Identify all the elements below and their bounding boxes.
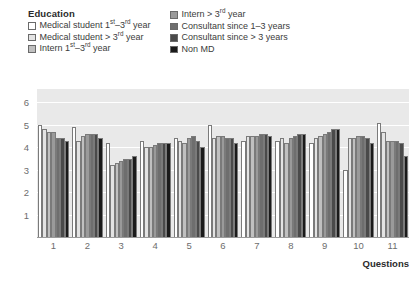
x-tick-label: 11: [377, 240, 408, 256]
bar: [98, 138, 102, 237]
legend-item-intern-gt3: Intern > 3rd year: [170, 9, 370, 21]
bar: [268, 136, 272, 237]
bar-groups: [37, 89, 409, 237]
bar-group-7: [241, 89, 272, 237]
legend-label-consultant-1-3: Consultant since 1–3 years: [182, 21, 291, 33]
bar-group-6: [208, 89, 239, 237]
x-tick-label: 3: [106, 240, 137, 256]
legend-item-consultant-1-3: Consultant since 1–3 years: [170, 21, 370, 33]
y-tick-label: 5: [24, 119, 29, 130]
bar-group-3: [106, 89, 137, 237]
x-tick-label: 1: [38, 240, 69, 256]
legend-swatch-consultant-1-3: [170, 23, 178, 31]
bar-group-2: [72, 89, 103, 237]
x-tick-label: 8: [275, 240, 306, 256]
bar: [132, 156, 136, 237]
legend-label-intern-1-3: Intern 1st–3rd year: [40, 43, 111, 55]
bar-group-11: [377, 89, 408, 237]
x-tick-label: 6: [208, 240, 239, 256]
chart-legend: Education Medical student 1st–3rd yearMe…: [28, 8, 408, 70]
x-axis-title: Questions: [363, 258, 409, 269]
legend-label-intern-gt3: Intern > 3rd year: [182, 9, 246, 21]
legend-swatch-non-md: [170, 46, 178, 54]
bar: [65, 141, 69, 237]
bar-group-9: [309, 89, 340, 237]
legend-swatch-consultant-gt3: [170, 34, 178, 42]
bar: [302, 134, 306, 237]
legend-swatch-medical-student-1-3: [28, 22, 36, 30]
x-axis: 1234567891011: [37, 240, 409, 256]
y-tick-label: 2: [24, 187, 29, 198]
y-tick-label: 3: [24, 164, 29, 175]
legend-item-consultant-gt3: Consultant since > 3 years: [170, 32, 370, 44]
bar-group-4: [140, 89, 171, 237]
x-tick-label: 5: [174, 240, 205, 256]
bar: [370, 143, 374, 237]
bar: [234, 143, 238, 237]
legend-column-right: Intern > 3rd yearConsultant since 1–3 ye…: [170, 9, 370, 55]
y-tick-label: 1: [24, 209, 29, 220]
legend-item-medical-student-gt3: Medical student > 3rd year: [28, 32, 173, 44]
x-axis-line: [37, 237, 409, 238]
bar-group-5: [174, 89, 205, 237]
legend-label-medical-student-1-3: Medical student 1st–3rd year: [40, 20, 151, 32]
legend-label-consultant-gt3: Consultant since > 3 years: [182, 32, 288, 44]
legend-swatch-medical-student-gt3: [28, 34, 36, 42]
legend-item-non-md: Non MD: [170, 44, 370, 56]
legend-label-medical-student-gt3: Medical student > 3rd year: [40, 32, 144, 44]
y-tick-label: 4: [24, 142, 29, 153]
bar-group-10: [343, 89, 374, 237]
x-tick-label: 7: [241, 240, 272, 256]
y-axis: 654321: [0, 89, 33, 237]
legend-column-left: Medical student 1st–3rd yearMedical stud…: [28, 20, 173, 55]
bar: [404, 156, 408, 237]
legend-columns: Medical student 1st–3rd yearMedical stud…: [28, 20, 408, 55]
legend-swatch-intern-gt3: [170, 11, 178, 19]
legend-swatch-intern-1-3: [28, 45, 36, 53]
bar-group-8: [275, 89, 306, 237]
bar-group-1: [38, 89, 69, 237]
plot-area: [37, 89, 409, 237]
bar: [336, 129, 340, 237]
legend-item-intern-1-3: Intern 1st–3rd year: [28, 43, 173, 55]
bar: [166, 143, 170, 237]
x-tick-label: 4: [140, 240, 171, 256]
x-tick-label: 2: [72, 240, 103, 256]
bar: [200, 147, 204, 237]
legend-item-medical-student-1-3: Medical student 1st–3rd year: [28, 20, 173, 32]
x-tick-label: 10: [343, 240, 374, 256]
y-tick-label: 6: [24, 97, 29, 108]
legend-label-non-md: Non MD: [182, 44, 215, 56]
x-tick-label: 9: [309, 240, 340, 256]
